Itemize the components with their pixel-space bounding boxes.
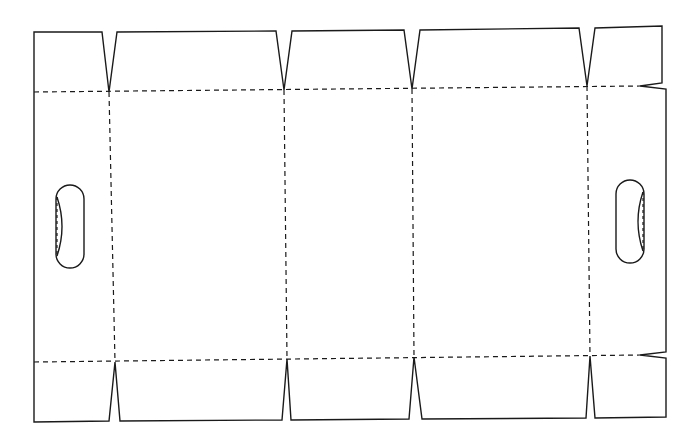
top-score-line [34,86,640,92]
vertical-score-line-4 [587,86,590,356]
left-hand-hole-flap-cut [57,197,62,256]
hand-holes [56,180,644,268]
bottom-score-line [34,355,640,362]
left-hand-hole [56,185,84,268]
vertical-score-line-3 [412,89,414,357]
vertical-score-line-1 [109,92,115,362]
die-cut-diagram [0,0,700,448]
right-hand-hole-flap-cut [638,192,643,251]
vertical-score-line-2 [284,90,287,359]
outer-cut-outline [34,26,666,422]
right-hand-hole [616,180,644,263]
